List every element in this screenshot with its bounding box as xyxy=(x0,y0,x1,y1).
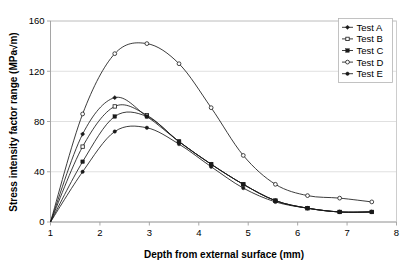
data-point xyxy=(145,42,149,46)
legend-marker-icon xyxy=(346,37,349,40)
data-point xyxy=(113,105,116,108)
chart-container: 12345678 04080120160 Depth from external… xyxy=(0,0,415,273)
data-point xyxy=(145,115,149,119)
data-point xyxy=(241,154,245,158)
x-tick-label: 1 xyxy=(48,227,53,238)
legend-marker-icon xyxy=(346,72,349,75)
data-point xyxy=(274,200,277,203)
y-tick-label: 40 xyxy=(34,166,45,177)
data-point xyxy=(370,210,373,213)
x-tick-label: 3 xyxy=(147,227,152,238)
x-tick-label: 7 xyxy=(344,227,349,238)
legend-marker-icon xyxy=(346,49,350,53)
y-tick-label: 80 xyxy=(34,116,45,127)
data-point xyxy=(338,196,342,200)
legend-marker-icon xyxy=(346,60,350,64)
legend[interactable]: Test ATest BTest CTest DTest E xyxy=(339,19,393,83)
x-tick-label: 8 xyxy=(394,227,399,238)
y-tick-label: 160 xyxy=(29,15,45,26)
x-tick-label: 4 xyxy=(196,227,201,238)
data-point xyxy=(338,210,341,213)
data-point xyxy=(177,62,181,66)
legend-item-label: Test D xyxy=(357,57,384,68)
y-axis-title: Stress intensity factor range (MPa√m) xyxy=(8,32,19,211)
y-tick-label: 120 xyxy=(29,66,45,77)
data-point xyxy=(209,106,213,110)
legend-item-label: Test A xyxy=(357,22,384,33)
data-point xyxy=(306,206,309,209)
data-point xyxy=(81,112,85,116)
data-point xyxy=(113,52,117,56)
line-chart: 12345678 04080120160 Depth from external… xyxy=(0,0,415,273)
data-point xyxy=(370,200,374,204)
data-point xyxy=(274,182,278,186)
data-point xyxy=(242,186,245,189)
data-point xyxy=(209,165,212,168)
legend-item-label: Test B xyxy=(357,33,383,44)
data-point xyxy=(113,115,117,119)
legend-item-label: Test C xyxy=(357,45,384,56)
x-tick-label: 5 xyxy=(246,227,251,238)
x-tick-label: 6 xyxy=(295,227,300,238)
data-point xyxy=(177,142,180,145)
x-tick-label: 2 xyxy=(97,227,102,238)
data-point xyxy=(81,170,84,173)
data-point xyxy=(241,183,245,187)
data-point xyxy=(306,194,310,198)
x-axis-title: Depth from external surface (mm) xyxy=(144,249,304,260)
data-point xyxy=(81,145,84,148)
data-point xyxy=(113,130,116,133)
data-point xyxy=(81,160,85,164)
y-tick-label: 0 xyxy=(39,216,44,227)
legend-item-label: Test E xyxy=(357,68,383,79)
data-point xyxy=(145,126,148,129)
